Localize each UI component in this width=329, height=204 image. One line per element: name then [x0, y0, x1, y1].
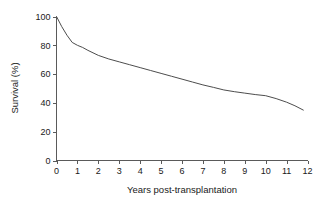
chart-plot-area: 020406080100 0123456789101112 Years post…	[0, 0, 329, 204]
y-axis: 020406080100	[35, 12, 56, 166]
y-tick-label: 100	[35, 12, 50, 22]
x-tick-label: 1	[75, 166, 80, 176]
x-tick-label: 6	[179, 166, 184, 176]
x-tick-group: 0123456789101112	[54, 161, 313, 176]
survival-chart-figure: 020406080100 0123456789101112 Years post…	[0, 0, 329, 204]
y-tick-label: 40	[40, 98, 50, 108]
x-tick-label: 5	[159, 166, 164, 176]
x-tick-label: 4	[138, 166, 143, 176]
x-tick-label: 7	[200, 166, 205, 176]
x-tick-label: 0	[54, 166, 59, 176]
x-tick-label: 8	[221, 166, 226, 176]
x-tick-label: 12	[302, 166, 312, 176]
survival-curve-line	[57, 17, 304, 111]
y-tick-label: 20	[40, 127, 50, 137]
x-tick-label: 11	[282, 166, 291, 176]
x-tick-label: 3	[117, 166, 122, 176]
x-tick-label: 9	[242, 166, 247, 176]
x-axis: 0123456789101112	[54, 161, 313, 176]
x-tick-label: 10	[261, 166, 271, 176]
y-tick-label: 80	[40, 41, 50, 51]
y-tick-label: 0	[45, 156, 50, 166]
y-tick-label: 60	[40, 69, 50, 79]
y-axis-title: Survival (%)	[9, 62, 20, 113]
x-axis-title: Years post-transplantation	[127, 184, 237, 195]
y-tick-group: 020406080100	[35, 12, 56, 166]
x-tick-label: 2	[96, 166, 101, 176]
